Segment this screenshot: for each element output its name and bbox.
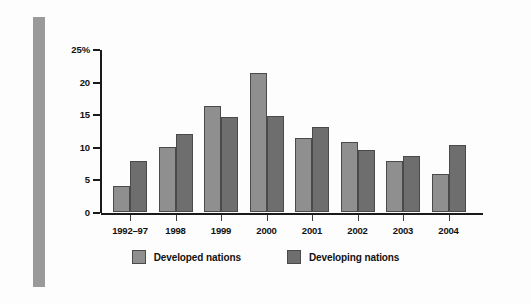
x-axis-tick [267, 215, 268, 221]
y-axis-label: 25% [56, 45, 90, 54]
x-axis-tick [176, 215, 177, 221]
x-axis-label: 2003 [378, 225, 428, 236]
bar-developing[interactable] [176, 134, 193, 212]
y-axis-label: 20 [56, 78, 90, 87]
x-axis-label: 2001 [287, 225, 337, 236]
x-axis-label: 2004 [424, 225, 474, 236]
x-axis-label: 1999 [196, 225, 246, 236]
x-axis-label: 2002 [333, 225, 383, 236]
chart-legend: Developed nationsDeveloping nations [0, 244, 531, 270]
x-axis-tick [358, 215, 359, 221]
bar-developing[interactable] [267, 116, 284, 212]
y-axis-tick [93, 212, 100, 214]
bar-developed[interactable] [341, 142, 358, 212]
y-axis-label: 5 [56, 175, 90, 184]
bar-developed[interactable] [432, 174, 449, 212]
x-axis-tick [221, 215, 222, 221]
legend-item[interactable]: Developed nations [132, 250, 241, 264]
plot-area: 0510152025% 1992–97199819992000200120022… [60, 40, 490, 220]
bar-developed[interactable] [204, 106, 221, 212]
legend-swatch-developing [287, 250, 301, 264]
legend-label: Developed nations [154, 252, 241, 263]
x-axis-label: 1998 [151, 225, 201, 236]
bar-developing[interactable] [312, 127, 329, 212]
y-axis-tick [93, 49, 100, 51]
legend-label: Developing nations [309, 252, 399, 263]
bar-developed[interactable] [250, 73, 267, 212]
bar-developing[interactable] [221, 117, 238, 212]
y-axis-tick [93, 179, 100, 181]
y-axis-tick [93, 147, 100, 149]
chart-figure: 0510152025% 1992–97199819992000200120022… [0, 0, 531, 304]
legend-item[interactable]: Developing nations [287, 250, 399, 264]
y-axis-label: 0 [56, 208, 90, 217]
x-axis-tick [130, 215, 131, 221]
x-axis-tick [449, 215, 450, 221]
y-axis-line [100, 50, 102, 213]
y-axis-label: 15 [56, 110, 90, 119]
bar-developing[interactable] [403, 156, 420, 212]
y-axis-tick [93, 114, 100, 116]
x-axis-tick [403, 215, 404, 221]
x-axis-tick [312, 215, 313, 221]
x-axis-label: 1992–97 [105, 225, 155, 236]
y-axis-tick [93, 82, 100, 84]
bar-developed[interactable] [159, 147, 176, 212]
y-axis-label: 10 [56, 143, 90, 152]
legend-swatch-developed [132, 250, 146, 264]
bar-developing[interactable] [449, 145, 466, 212]
bar-developing[interactable] [358, 150, 375, 212]
bar-developed[interactable] [386, 161, 403, 212]
x-axis-label: 2000 [242, 225, 292, 236]
bar-developed[interactable] [295, 138, 312, 212]
bar-developed[interactable] [113, 186, 130, 212]
x-axis-line [101, 213, 483, 215]
bar-developing[interactable] [130, 161, 147, 212]
